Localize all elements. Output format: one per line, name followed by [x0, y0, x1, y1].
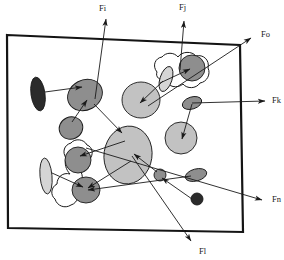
- force-label-fo: Fo: [261, 29, 270, 39]
- ellipse-mid-gray-lower-left-upper: [65, 147, 91, 173]
- force-label-fi: Fi: [99, 3, 107, 13]
- force-label-fn: Fn: [272, 194, 282, 204]
- ellipse-light-mid-upper: [122, 82, 160, 118]
- force-label-fl: Fl: [199, 246, 207, 256]
- force-label-fj: Fj: [179, 2, 186, 12]
- force-label-fk: Fk: [272, 95, 282, 105]
- circle-dark-small-bottom: [191, 193, 203, 205]
- ellipse-mid-gray-lower-left-lower: [72, 177, 100, 203]
- force-diagram-svg: FiFjFoFkFnFl: [0, 0, 284, 260]
- ellipse-light-right-mid: [165, 122, 197, 154]
- figure-container: FiFjFoFkFnFl: [0, 0, 284, 260]
